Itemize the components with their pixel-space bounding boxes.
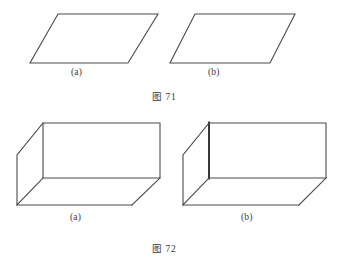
figure-72-panel-b-label: (b) bbox=[241, 212, 253, 222]
figure-71-group bbox=[30, 14, 295, 63]
figure-71-panel-b-label: (b) bbox=[208, 67, 220, 77]
parallelogram-b bbox=[170, 14, 295, 63]
parallelogram-a bbox=[30, 14, 158, 63]
cuboid-b bbox=[183, 123, 326, 206]
cuboid-a bbox=[17, 123, 160, 205]
figure-71-panel-a-label: (a) bbox=[71, 67, 82, 77]
figure-72-panel-a-label: (a) bbox=[70, 212, 81, 222]
figure-sheet: (a) (b) 图 71 (a) (b) 图 72 bbox=[0, 0, 343, 259]
figure-72-group bbox=[17, 123, 326, 206]
figure-71-caption: 图 71 bbox=[152, 89, 176, 103]
figure-drawing-canvas bbox=[0, 0, 343, 259]
figure-72-caption: 图 72 bbox=[152, 241, 176, 255]
